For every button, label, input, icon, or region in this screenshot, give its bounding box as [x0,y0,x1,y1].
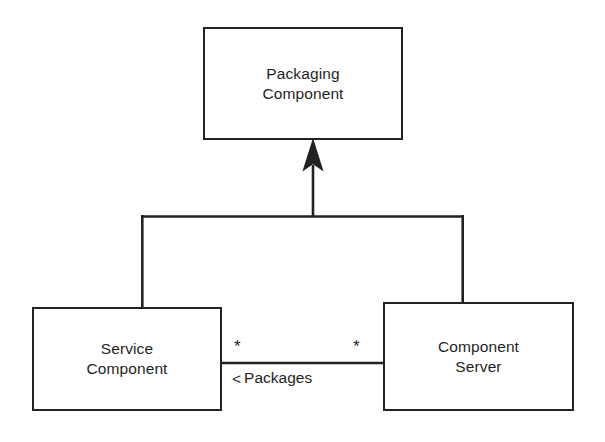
association-label-group: < Packages [232,369,312,388]
class-box-packaging-component[interactable]: Packaging Component [203,27,403,140]
generalization-tree-connector [141,140,464,308]
class-box-component-server[interactable]: Component Server [383,302,574,411]
navigation-direction-triangle-icon: < [232,371,241,387]
class-name-component-server: Component Server [385,336,572,377]
generalization-arrowhead-icon [304,140,323,170]
association-multiplicity-target: * [353,338,360,355]
class-name-packaging-component: Packaging Component [205,63,401,104]
class-name-service-component: Service Component [34,339,220,380]
class-box-service-component[interactable]: Service Component [32,307,222,411]
association-label-text: Packages [244,369,312,388]
association-multiplicity-source: * [234,338,241,355]
uml-class-diagram: Packaging Component Service Component Co… [0,0,605,442]
